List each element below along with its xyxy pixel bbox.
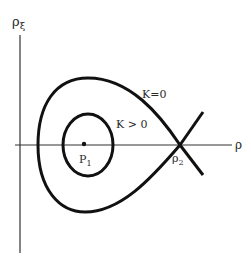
inner-curve-label: K > 0 <box>116 118 147 131</box>
horizontal-axis-label: ρ <box>235 138 242 152</box>
center-point-label: P1 <box>79 153 92 168</box>
phase-portrait-diagram: ρξ ρ K=0 K > 0 P1 ρ2 <box>0 0 251 270</box>
center-point-p1 <box>82 142 86 146</box>
vertical-axis-label: ρξ <box>12 14 26 31</box>
outer-curve-label: K=0 <box>142 88 166 101</box>
separatrix-branch-up <box>180 112 203 145</box>
saddle-point-label: ρ2 <box>172 152 184 167</box>
